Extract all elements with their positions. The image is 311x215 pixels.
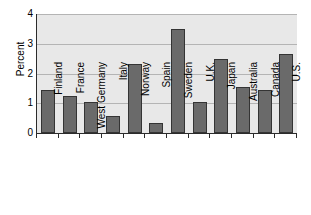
y-axis-tick-labels: 01234 bbox=[18, 0, 33, 215]
x-label-italy: Italy bbox=[117, 62, 131, 138]
x-label-u-k: U.K. bbox=[204, 62, 218, 138]
x-axis-category-labels: FinlandFranceWest GermanyItalyNorwaySpai… bbox=[36, 138, 297, 214]
x-label-finland: Finland bbox=[52, 62, 66, 138]
x-label-norway: Norway bbox=[139, 62, 153, 138]
x-label-u-s: U.S. bbox=[290, 62, 304, 138]
y-tick-label-4: 4 bbox=[21, 8, 33, 19]
x-label-west-germany: West Germany bbox=[95, 62, 109, 138]
x-label-japan: Japan bbox=[225, 62, 239, 138]
x-label-canada: Canada bbox=[269, 62, 283, 138]
y-tick-label-3: 3 bbox=[21, 38, 33, 49]
x-label-france: France bbox=[74, 62, 88, 138]
y-tick-label-0: 0 bbox=[21, 127, 33, 138]
y-tick-label-1: 1 bbox=[21, 97, 33, 108]
bar-chart: Percent 01234 FinlandFranceWest GermanyI… bbox=[0, 0, 311, 215]
x-label-sweden: Sweden bbox=[182, 62, 196, 138]
x-label-australia: Australia bbox=[247, 62, 261, 138]
x-label-spain: Spain bbox=[160, 62, 174, 138]
y-tick-label-2: 2 bbox=[21, 68, 33, 79]
